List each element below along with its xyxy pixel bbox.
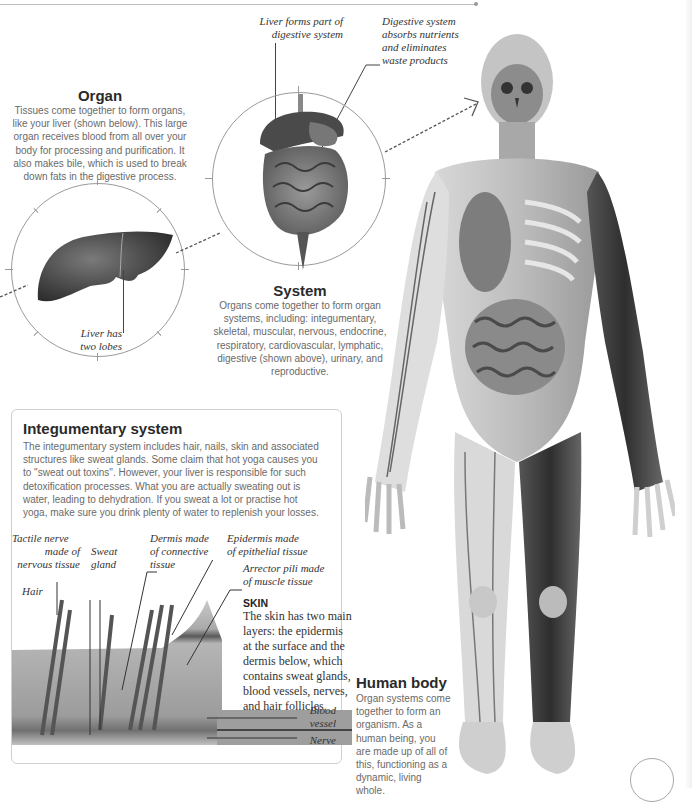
liver-digestive-label-line1: Liver forms part of <box>218 15 343 28</box>
dermis-line1: Dermis made <box>150 532 209 545</box>
epidermis-label: Epidermis made of epithelial tissue <box>227 532 308 558</box>
digestive-system-illustration <box>255 92 355 272</box>
system-description: Organs come together to form organ syste… <box>212 299 388 378</box>
sweat-line1: Sweat <box>91 545 117 558</box>
blood-line2: vessel <box>300 717 336 730</box>
dermis-line2: of connective <box>150 545 209 558</box>
dashed-arrow-to-body <box>380 90 490 160</box>
circle-tick <box>97 177 98 185</box>
blood-line1: Blood <box>300 704 336 717</box>
liver-digestive-label-line2: digestive system <box>218 28 343 41</box>
liver-lobes-label-line2: two lobes <box>60 340 122 353</box>
skin-description: The skin has two main layers: the epider… <box>243 609 353 714</box>
circle-tick <box>205 178 213 179</box>
skin-title: SKIN <box>243 597 353 609</box>
blood-vessel-label: Blood vessel <box>300 704 336 730</box>
human-body-description: Organ systems come together to form an o… <box>356 692 451 798</box>
liver-lobes-label-line1: Liver has <box>60 327 122 340</box>
integumentary-title: Integumentary system <box>23 420 182 437</box>
organ-description: Tissues come together to form organs, li… <box>6 104 194 183</box>
epidermis-line1: Epidermis made <box>227 532 308 545</box>
epidermis-line2: of epithelial tissue <box>227 545 308 558</box>
page-number-badge <box>630 758 674 802</box>
organ-title: Organ <box>0 87 200 104</box>
liver-digestive-label: Liver forms part of digestive system <box>218 15 343 41</box>
skin-info: SKIN The skin has two main layers: the e… <box>243 597 353 714</box>
tactile-line2: made of <box>12 545 80 558</box>
human-body-title: Human body <box>356 674 447 691</box>
nerve-label: Nerve <box>300 734 336 747</box>
page-gutter <box>686 0 692 788</box>
circle-tick <box>97 353 98 361</box>
tactile-line1: Tactile nerve <box>12 532 80 545</box>
liver-lobes-label: Liver has two lobes <box>60 327 122 353</box>
system-title: System <box>210 282 390 299</box>
top-divider-line <box>0 4 476 5</box>
integumentary-description: The integumentary system includes hair, … <box>23 440 323 519</box>
